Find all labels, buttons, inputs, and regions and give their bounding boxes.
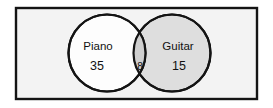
venn-diagram-figure: Piano 35 8 Guitar 15 (0, 0, 273, 108)
piano-only-count: 35 (90, 59, 104, 73)
guitar-set-label: Guitar (162, 40, 193, 52)
guitar-only-count: 15 (172, 59, 186, 73)
intersection-count: 8 (137, 61, 143, 72)
piano-set-label: Piano (83, 40, 112, 52)
